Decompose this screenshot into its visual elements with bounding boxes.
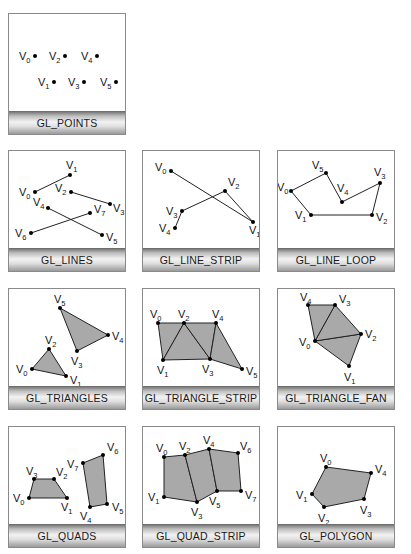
vertex-label: V5 [312, 159, 324, 174]
vertex-label: V6 [107, 441, 119, 456]
vertex-label: V3 [202, 363, 214, 378]
filled-face [312, 467, 371, 507]
vertex-label: V1 [148, 491, 160, 506]
vertex-point [106, 333, 110, 337]
vertex-label: V5 [100, 76, 112, 91]
lines-figure: V0V1V2V3V4V5V6V7 [9, 151, 125, 249]
edge-line [225, 191, 253, 222]
vertex-point [289, 189, 293, 193]
panel-gl-line-loop: V0V1V2V3V4V5 GL_LINE_LOOP [277, 150, 395, 272]
filled-face [29, 479, 67, 498]
edge-line [71, 192, 110, 204]
vertex-point [105, 502, 109, 506]
vertex-label: V3 [166, 205, 178, 220]
vertex-point [46, 206, 50, 210]
vertex-label: V4 [203, 434, 215, 449]
vertex-label: V0 [299, 336, 311, 351]
vertex-label: V1 [61, 501, 73, 516]
vertex-point [378, 181, 382, 185]
vertex-point [239, 489, 243, 493]
vertex-point [347, 364, 351, 368]
vertex-point [27, 496, 31, 500]
vertex-label: V1 [344, 371, 356, 386]
vertex-label: V5 [54, 293, 66, 308]
panel-label: GL_POINTS [9, 111, 125, 134]
vertex-label: V5 [106, 231, 118, 246]
vertex-point [69, 190, 73, 194]
quad-strip-figure: V0V1V2V3V4V5V6V7 [143, 427, 259, 525]
vertex-point [223, 189, 227, 193]
vertex-label: V4 [33, 196, 45, 211]
vertex-label: V3 [71, 355, 83, 370]
vertex-label: V3 [374, 166, 386, 181]
vertex-point [81, 461, 85, 465]
vertex-label: V4 [300, 291, 312, 306]
vertex-label: V3 [339, 293, 351, 308]
vertex-label: V1 [38, 76, 50, 91]
panel-label: GL_LINE_STRIP [143, 248, 259, 271]
vertex-point [63, 54, 67, 58]
vertex-label: V0 [156, 442, 168, 457]
edge-line [291, 173, 326, 191]
vertex-point [214, 321, 218, 325]
vertex-point [309, 213, 313, 217]
panel-label: GL_QUADS [9, 524, 125, 547]
vertex-label: V2 [179, 440, 191, 455]
vertex-label: V4 [337, 182, 349, 197]
vertex-point [161, 358, 165, 362]
panel-label: GL_TRIANGLES [9, 386, 125, 409]
filled-face [210, 323, 242, 369]
vertex-label: V1 [295, 209, 307, 224]
vertex-point [30, 367, 34, 371]
panel-label: GL_TRIANGLE_FAN [278, 386, 394, 409]
line-loop-figure: V0V1V2V3V4V5 [278, 151, 394, 249]
vertex-label: V2 [178, 308, 190, 323]
vertex-label: V1 [249, 224, 259, 239]
vertex-point [108, 202, 112, 206]
vertex-label: V2 [376, 211, 388, 226]
vertex-point [47, 347, 51, 351]
vertex-point [101, 453, 105, 457]
vertex-point [322, 505, 326, 509]
triangle-strip-figure: V0V1V2V3V4V5 [143, 289, 259, 387]
vertex-point [100, 233, 104, 237]
vertex-label: V3 [360, 504, 372, 519]
vertex-point [29, 231, 33, 235]
vertex-label: V2 [45, 334, 57, 349]
vertex-point [114, 80, 118, 84]
vertex-label: V5 [209, 495, 221, 510]
vertex-point [359, 332, 363, 336]
vertex-point [340, 200, 344, 204]
panel-label: GL_QUAD_STRIP [143, 524, 259, 547]
line-strip-figure: V0V1V2V3V4 [143, 151, 259, 249]
vertex-label: V0 [320, 452, 332, 467]
panel-gl-lines: V0V1V2V3V4V5V6V7 GL_LINES [8, 150, 126, 272]
vertex-label: V0 [13, 492, 25, 507]
vertex-point [215, 489, 219, 493]
vertex-point [369, 471, 373, 475]
points-figure: V0V1V2V3V4V5 [9, 14, 125, 112]
vertex-label: V7 [245, 489, 257, 504]
vertex-point [310, 492, 314, 496]
vertex-point [324, 171, 328, 175]
vertex-label: V4 [112, 330, 124, 345]
vertex-label: V0 [19, 186, 31, 201]
vertex-label: V4 [81, 50, 93, 65]
vertex-label: V6 [15, 227, 27, 242]
vertex-point [370, 213, 374, 217]
vertex-label: V0 [16, 363, 28, 378]
edge-line [31, 213, 90, 233]
panel-gl-triangle-strip: V0V1V2V3V4V5 GL_TRIANGLE_STRIP [142, 288, 260, 410]
vertex-label: V4 [375, 463, 387, 478]
vertex-point [64, 374, 68, 378]
quads-figure: V0V1V2V3V4V5V6V7 [9, 427, 125, 525]
vertex-label: V3 [26, 465, 38, 480]
vertex-label: V3 [191, 506, 203, 521]
vertex-point [362, 497, 366, 501]
filled-face [60, 308, 108, 351]
vertex-point [240, 367, 244, 371]
vertex-point [33, 190, 37, 194]
vertex-label: V0 [150, 308, 162, 323]
vertex-point [180, 209, 184, 213]
filled-face [32, 349, 66, 376]
